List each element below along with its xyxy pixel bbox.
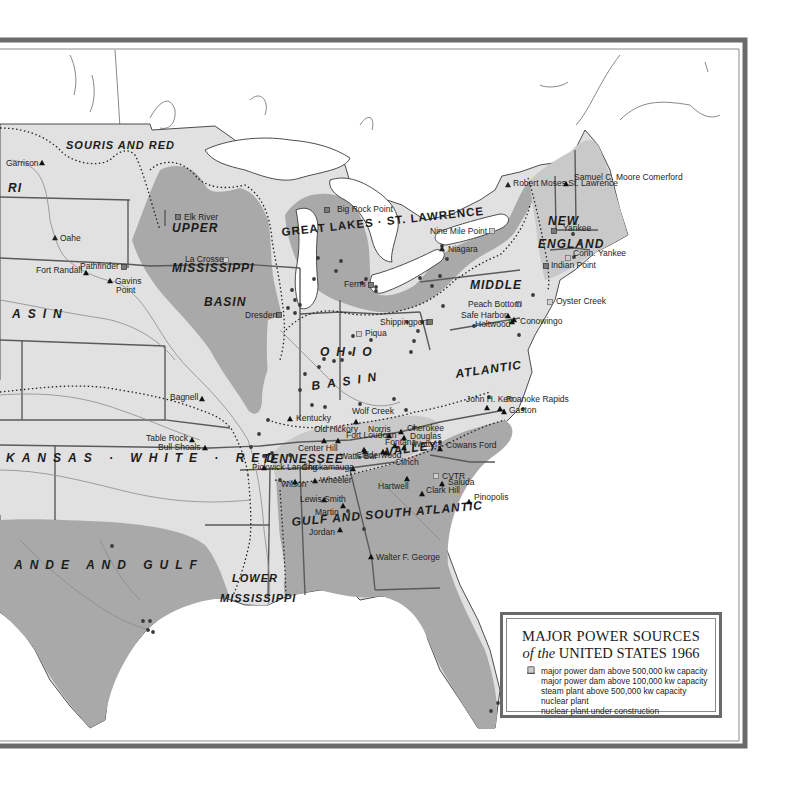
steam-plant-dot-icon [293,311,297,315]
legend-item-nuclear-plant: nuclear plant [527,696,708,706]
site-label: Conn. Yankee [573,248,626,258]
site-label: Jordan [309,527,335,537]
site-label: Hartwell [378,481,409,491]
legend-item-dam-large: major power dam above 500,000 kw capacit… [527,666,708,676]
site-label: Elk River [184,212,218,222]
steam-plant-dot-icon [310,403,314,407]
power-site: Cowans Ford [437,440,497,451]
power-site: Bull Shoals [158,442,208,452]
power-site: Indian Point [544,260,597,270]
site-label: Bagnell [170,392,198,402]
site-label: Clinch [395,457,419,467]
legend-item-steam-plant: steam plant above 500,000 kw capacity [527,686,708,696]
site-label: Shippingport [380,317,428,327]
site-label: Cowans Ford [446,440,497,450]
legend-subtitle-main: UNITED STATES 1966 [559,645,700,661]
steam-plant-dot-icon [430,284,434,288]
steam-plant-dot-icon [290,288,294,292]
power-site: Clark Hill [419,485,460,496]
site-label: Indian Point [551,260,597,270]
site-label: Fermi [344,279,366,289]
steam-plant-dot-icon [332,359,336,363]
site-label: Wheeler [320,475,352,485]
power-site: Dresden [245,310,282,320]
steam-plant-dot-icon [489,709,493,713]
legend-item-nuclear-construction: nuclear plant under construction [527,706,708,716]
site-label: Big Rock Point [337,204,393,214]
steam-plant-dot-icon [303,372,307,376]
site-label: Nine Mile Point [430,226,488,236]
site-label: Garrison [6,158,39,168]
site-label: Clark Hill [426,485,460,495]
site-label: La Crosse [185,254,224,264]
legend-item-dam-medium: major power dam above 100,000 kw capacit… [527,676,708,686]
region-label-missouri-basin-fragment: ASIN [11,307,69,321]
steam-plant-dot-icon [392,397,396,401]
nuclear-plant-square-icon [122,265,127,270]
steam-plant-dot-icon [262,454,266,458]
site-label: Niagara [448,244,478,254]
site-label: Holtwood [475,319,511,329]
nuclear-construction-square-icon [490,229,495,234]
steam-plant-dot-icon [418,276,422,280]
power-site: Wilson [281,479,307,489]
region-label-missouri-fragment: RI [8,181,22,195]
site-label: Dresden [245,310,277,320]
steam-plant-dot-icon [298,303,302,307]
legend-subtitle-prefix: of the [523,645,556,661]
region-label-arkansas-white-red: KANSAS · WHITE · RED [6,451,282,465]
steam-plant-dot-icon [322,357,326,361]
steam-plant-dot-icon [148,619,152,623]
steam-plant-dot-icon [334,269,338,273]
nuclear-plant-square-icon [369,283,374,288]
power-site: Oyster Creek [548,296,607,306]
site-label: Peach Bottom [468,299,521,309]
region-label-basin: BASIN [204,295,246,309]
steam-plant-dot-icon [445,257,449,261]
steam-plant-dot-icon [141,619,145,623]
steam-plant-dot-icon [146,628,150,632]
site-label: Fort Randall [36,265,82,275]
site-label: Oahe [60,233,81,243]
power-site: Lewis Smith [300,494,346,504]
nuclear-construction-square-icon [434,474,439,479]
steam-plant-dot-icon [110,544,114,548]
nuclear-plant-square-icon [552,229,557,234]
steam-plant-dot-icon [362,527,366,531]
region-label-rio-grande-gulf: ANDE AND GULF [13,558,204,572]
steam-plant-dot-icon [249,445,253,449]
steam-plant-dot-icon [257,432,261,436]
site-label: Pinopolis [474,492,509,502]
nuclear-plant-square-icon [176,215,181,220]
power-site: Walter F. George [368,552,440,562]
site-label: Gaston [509,405,537,415]
steam-plant-dot-icon [270,451,274,455]
site-label: Piqua [365,328,387,338]
region-label-middle: MIDDLE [470,278,522,292]
nuclear-plant-square-icon [325,208,330,213]
site-label: Wolf Creek [352,406,395,416]
legend-subtitle: of the UNITED STATES 1966 [507,645,715,662]
site-label: Martin [315,507,339,517]
steam-plant-dot-icon [374,289,378,293]
steam-plant-dot-icon [316,256,320,260]
site-label: Lewis Smith [300,494,346,504]
steam-plant-dot-icon [369,338,373,342]
site-label: Wilson [281,479,307,489]
steam-plant-dot-icon [266,418,270,422]
region-label-souris-red: SOURIS AND RED [66,139,175,151]
steam-plant-dot-icon [441,304,445,308]
site-label: Pathfinder [80,261,119,271]
power-site: Fontana [385,437,416,448]
nuclear-construction-square-icon [548,300,553,305]
steam-plant-dot-icon [438,274,442,278]
legend: MAJOR POWER SOURCES of the UNITED STATES… [500,612,722,718]
steam-plant-dot-icon [340,358,344,362]
power-site: Point [116,285,136,295]
nuclear-construction-square-icon [224,258,229,263]
steam-plant-dot-icon [348,351,352,355]
site-label: Oyster Creek [556,296,607,306]
steam-plant-dot-icon [293,298,297,302]
steam-plant-dot-icon [312,277,316,281]
site-label: Point [116,285,136,295]
